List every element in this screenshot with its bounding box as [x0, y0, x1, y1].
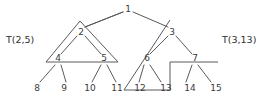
edge-4-8 [40, 65, 55, 82]
node-2: 2 [78, 27, 84, 37]
subtree-label-right: T(3,13) [221, 34, 256, 45]
edge-5-10 [92, 65, 101, 82]
tree-edges [40, 12, 211, 82]
edge-2-5 [85, 36, 101, 54]
node-1: 1 [125, 4, 131, 14]
tree-diagram: 1 2 3 4 5 6 7 8 9 10 11 12 13 14 15 T(2,… [0, 0, 263, 100]
tree-node-labels: 1 2 3 4 5 6 7 [55, 4, 198, 63]
subtree-annotations: T(2,5) T(3,13) [5, 34, 256, 45]
edge-6-13 [150, 65, 161, 82]
edge-1-3 [133, 12, 168, 27]
edge-3-6 [150, 36, 168, 54]
node-5: 5 [101, 53, 107, 63]
node-7: 7 [192, 53, 198, 63]
leaf-10: 10 [84, 83, 96, 93]
node-3: 3 [169, 27, 175, 37]
edge-7-15 [198, 65, 211, 82]
leaf-12: 12 [134, 83, 145, 93]
node-4: 4 [55, 53, 61, 63]
edge-4-9 [61, 65, 66, 82]
node-6: 6 [144, 53, 150, 63]
diagram-canvas: 1 2 3 4 5 6 7 8 9 10 11 12 13 14 15 T(2,… [0, 0, 263, 100]
edge-3-7 [176, 36, 192, 54]
edge-6-12 [139, 65, 144, 82]
leaf-15: 15 [210, 83, 221, 93]
edge-2-4 [61, 36, 77, 54]
leaf-13: 13 [160, 83, 171, 93]
edge-5-11 [107, 65, 116, 82]
edge-7-14 [186, 65, 192, 82]
leaf-9: 9 [61, 83, 67, 93]
subtree-label-left: T(2,5) [5, 34, 34, 45]
leaf-14: 14 [184, 83, 196, 93]
edge-1-2-b [85, 12, 123, 27]
leaf-11: 11 [111, 83, 122, 93]
leaf-8: 8 [34, 83, 40, 93]
